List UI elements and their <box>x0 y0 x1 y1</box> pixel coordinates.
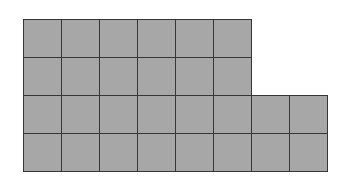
grid-square <box>61 133 100 172</box>
grid-square <box>23 19 62 58</box>
grid-square <box>99 57 138 96</box>
square-grid-diagram <box>0 0 344 182</box>
grid-square <box>61 95 100 134</box>
grid-square <box>137 95 176 134</box>
grid-square <box>175 57 214 96</box>
grid-square <box>61 57 100 96</box>
grid-square <box>175 19 214 58</box>
grid-square <box>251 95 290 134</box>
grid-square <box>23 57 62 96</box>
grid-square <box>23 95 62 134</box>
grid-square <box>99 133 138 172</box>
grid-square <box>175 95 214 134</box>
grid-square <box>137 19 176 58</box>
grid-square <box>213 19 252 58</box>
grid-square <box>213 57 252 96</box>
grid-square <box>61 19 100 58</box>
grid-square <box>175 133 214 172</box>
grid-square <box>137 133 176 172</box>
grid-square <box>23 133 62 172</box>
grid-square <box>213 95 252 134</box>
grid-square <box>289 95 328 134</box>
grid-square <box>99 95 138 134</box>
grid-square <box>137 57 176 96</box>
grid-square <box>99 19 138 58</box>
grid-square <box>251 133 290 172</box>
grid-square <box>213 133 252 172</box>
grid-square <box>289 133 328 172</box>
